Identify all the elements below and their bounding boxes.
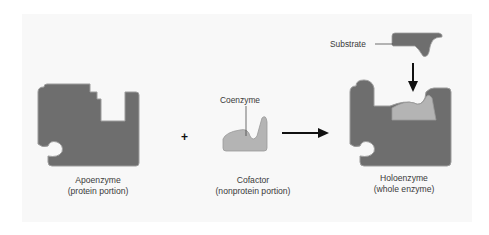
substrate-shape bbox=[392, 33, 442, 57]
enzyme-diagram: + Coenzyme Substrate Apoenzyme (protein … bbox=[0, 0, 489, 235]
substrate-label: Substrate bbox=[330, 39, 366, 49]
plus-sign: + bbox=[181, 130, 188, 144]
apoenzyme-caption: Apoenzyme (protein portion) bbox=[48, 175, 148, 197]
holoenzyme-shape bbox=[350, 80, 451, 166]
apoenzyme-name: Apoenzyme bbox=[48, 175, 148, 186]
apoenzyme-shape bbox=[38, 84, 139, 166]
holoenzyme-name: Holoenzyme bbox=[354, 173, 454, 184]
cofactor-name: Cofactor bbox=[193, 175, 313, 186]
cofactor-desc: (nonprotein portion) bbox=[193, 186, 313, 197]
holoenzyme-caption: Holoenzyme (whole enzyme) bbox=[354, 173, 454, 195]
binding-arrowhead bbox=[408, 81, 418, 92]
diagram-shapes: + bbox=[0, 0, 489, 235]
coenzyme-shape bbox=[223, 117, 267, 151]
reaction-arrowhead bbox=[318, 128, 329, 138]
coenzyme-label: Coenzyme bbox=[220, 95, 260, 105]
holoenzyme-desc: (whole enzyme) bbox=[354, 184, 454, 195]
apoenzyme-desc: (protein portion) bbox=[48, 186, 148, 197]
bound-coenzyme-shape bbox=[392, 95, 436, 120]
cofactor-caption: Cofactor (nonprotein portion) bbox=[193, 175, 313, 197]
